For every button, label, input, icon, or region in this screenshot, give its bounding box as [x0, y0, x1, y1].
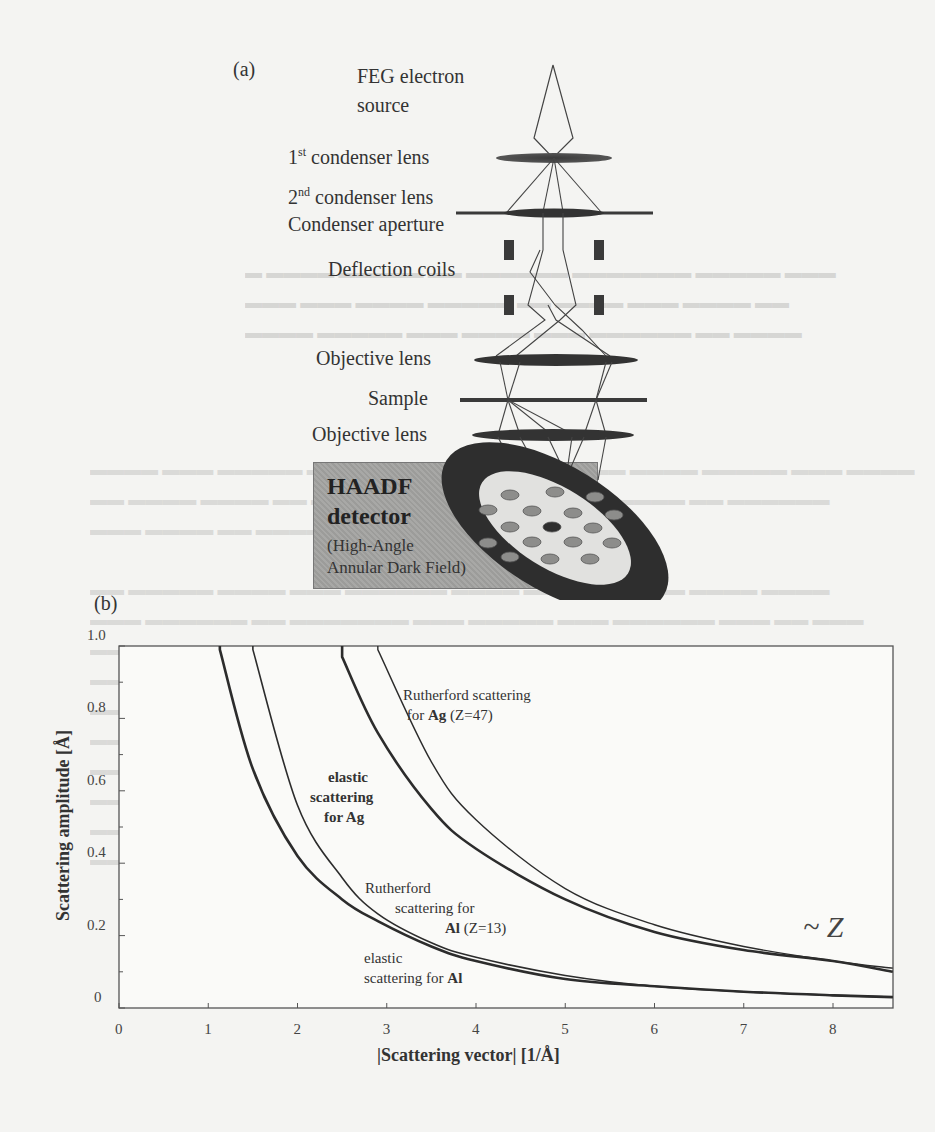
objective-lens-upper-icon	[474, 354, 638, 366]
haadf-title: detector	[327, 503, 411, 530]
y-tick-label: 0.2	[87, 917, 106, 934]
electron-source-icon	[534, 65, 573, 158]
y-tick-label: 1.0	[87, 627, 106, 644]
beam-rays	[500, 362, 612, 400]
x-axis-title: |Scattering vector| [1/Å]	[377, 1045, 560, 1066]
beam-rays	[496, 213, 610, 356]
y-tick-label: 0.4	[87, 844, 106, 861]
y-tick-label: 0.6	[87, 772, 106, 789]
z-proportional-annotation: ~ Z	[803, 910, 843, 944]
plot-curves	[220, 646, 893, 997]
haadf-title: HAADF	[327, 473, 412, 500]
x-tick-label: 4	[472, 1021, 480, 1038]
label-al-rutherford: Rutherford scattering for Al (Z=13)	[365, 878, 506, 938]
x-tick-label: 8	[829, 1021, 837, 1038]
panel-b-label: (b)	[94, 592, 117, 615]
condenser-lens-2-icon	[504, 209, 604, 218]
y-axis-title: Scattering amplitude [Å]	[53, 696, 74, 956]
objective-lens-lower-icon	[472, 429, 634, 441]
haadf-subtitle: Annular Dark Field)	[327, 558, 466, 578]
x-tick-label: 0	[115, 1021, 123, 1038]
x-tick-label: 7	[740, 1021, 748, 1038]
label-ag-rutherford: Rutherford scattering for Ag (Z=47)	[403, 685, 531, 725]
beam-rays	[507, 158, 601, 212]
curve-elastic-scattering-for-al	[220, 646, 893, 997]
stem-ray-diagram	[0, 0, 935, 600]
x-tick-label: 3	[383, 1021, 391, 1038]
y-tick-label: 0	[94, 989, 102, 1006]
label-ag-elastic: elastic scattering for Ag	[326, 767, 373, 827]
y-tick-label: 0.8	[87, 699, 106, 716]
haadf-subtitle: (High-Angle	[327, 536, 414, 556]
label-al-elastic: elastic scattering for Al	[364, 948, 462, 988]
x-tick-label: 5	[561, 1021, 569, 1038]
x-tick-label: 6	[651, 1021, 659, 1038]
x-tick-label: 1	[204, 1021, 212, 1038]
x-tick-label: 2	[294, 1021, 302, 1038]
